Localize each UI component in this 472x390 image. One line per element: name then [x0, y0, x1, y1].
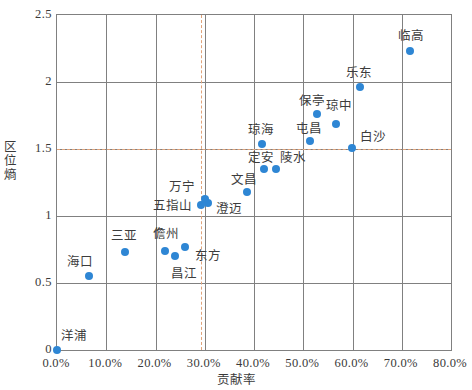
data-point-label: 琼中 — [326, 100, 352, 113]
reference-line-vertical — [201, 15, 202, 350]
data-point-label: 五指山 — [153, 200, 192, 213]
y-axis-ticks: 00.511.522.5 — [0, 14, 52, 351]
data-point-label: 定安 — [248, 152, 274, 165]
y-axis-tick-label: 2 — [2, 75, 52, 88]
data-point[interactable] — [171, 252, 179, 260]
x-axis-tick-label: 40.0% — [236, 357, 270, 370]
y-axis-tick-label: 1.5 — [2, 142, 52, 155]
x-axis-title: 贡献率 — [0, 374, 472, 387]
plot-area: 洋浦海口三亚儋州昌江东方五指山澄迈万宁文昌琼海定安陵水屯昌保亭琼中白沙乐东临高 — [56, 14, 452, 351]
gridline-horizontal — [57, 82, 451, 83]
data-point-label: 屯昌 — [296, 123, 322, 136]
data-point[interactable] — [332, 120, 340, 128]
gridline-vertical — [156, 15, 157, 350]
x-axis-ticks: 0.0%10.0%20.0%30.0%40.0%50.0%60.0%70.0%8… — [0, 357, 472, 373]
data-point[interactable] — [53, 346, 61, 354]
data-point-label: 昌江 — [171, 268, 197, 281]
x-axis-tick-label: 30.0% — [187, 357, 221, 370]
data-point[interactable] — [161, 247, 169, 255]
data-point[interactable] — [258, 140, 266, 148]
y-axis-tick-label: 2.5 — [2, 8, 52, 21]
data-point[interactable] — [313, 110, 321, 118]
data-point[interactable] — [85, 272, 93, 280]
gridline-vertical — [303, 15, 304, 350]
gridline-vertical — [402, 15, 403, 350]
y-axis-tick-label: 1 — [2, 209, 52, 222]
y-axis-tick-label: 0 — [2, 343, 52, 356]
data-point-label: 万宁 — [169, 181, 195, 194]
data-point-label: 儋州 — [153, 228, 179, 241]
data-point[interactable] — [348, 144, 356, 152]
data-point-label: 文昌 — [231, 174, 257, 187]
x-axis-tick-label: 80.0% — [433, 357, 467, 370]
data-point-label: 琼海 — [248, 124, 274, 137]
data-point[interactable] — [272, 165, 280, 173]
data-point[interactable] — [121, 248, 129, 256]
x-axis-tick-label: 70.0% — [384, 357, 418, 370]
data-point[interactable] — [306, 137, 314, 145]
gridline-vertical — [205, 15, 206, 350]
data-point-label: 保亭 — [299, 95, 325, 108]
x-axis-tick-label: 60.0% — [335, 357, 369, 370]
data-point[interactable] — [243, 188, 251, 196]
data-point-label: 三亚 — [111, 230, 137, 243]
data-point-label: 澄迈 — [216, 203, 242, 216]
y-axis-tick-label: 0.5 — [2, 276, 52, 289]
data-point-label: 海口 — [67, 256, 93, 269]
data-point-label: 东方 — [195, 250, 221, 263]
data-point[interactable] — [356, 83, 364, 91]
data-point[interactable] — [201, 195, 209, 203]
data-point[interactable] — [181, 243, 189, 251]
gridline-horizontal — [57, 216, 451, 217]
data-point-label: 洋浦 — [61, 330, 87, 343]
x-axis-tick-label: 50.0% — [285, 357, 319, 370]
x-axis-tick-label: 20.0% — [138, 357, 172, 370]
data-point[interactable] — [406, 47, 414, 55]
x-axis-tick-label: 0.0% — [42, 357, 69, 370]
data-point-label: 临高 — [398, 30, 424, 43]
x-axis-tick-label: 10.0% — [88, 357, 122, 370]
data-point-label: 陵水 — [280, 152, 306, 165]
gridline-vertical — [106, 15, 107, 350]
data-point-label: 乐东 — [346, 67, 372, 80]
scatter-chart: 区位熵 00.511.522.5 洋浦海口三亚儋州昌江东方五指山澄迈万宁文昌琼海… — [0, 0, 472, 390]
data-point-label: 白沙 — [360, 131, 386, 144]
data-point[interactable] — [260, 165, 268, 173]
gridline-horizontal — [57, 283, 451, 284]
